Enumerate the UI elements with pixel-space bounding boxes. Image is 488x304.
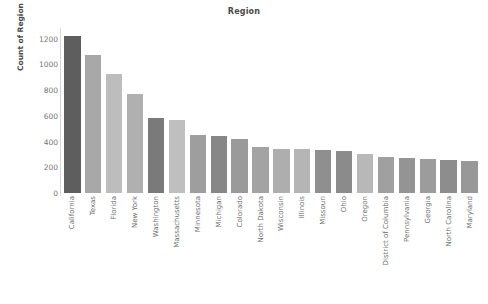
bar[interactable] <box>85 55 101 193</box>
bar[interactable] <box>169 120 185 193</box>
bar[interactable] <box>211 136 227 193</box>
x-axis-tick: Texas <box>89 196 97 215</box>
x-axis-tick: Michigan <box>215 196 223 227</box>
bar[interactable] <box>127 94 143 193</box>
x-axis-tick-labels: CaliforniaTexasFloridaNew YorkWashington… <box>62 196 480 296</box>
bar[interactable] <box>190 135 206 194</box>
bar-chart: Region Count of Region 02004006008001000… <box>0 0 488 304</box>
y-axis-tick: 800 <box>30 86 58 95</box>
x-axis-tick: Massachusetts <box>173 196 181 248</box>
bar[interactable] <box>106 74 122 193</box>
x-axis-tick: Missouri <box>319 196 327 225</box>
x-axis-tick: New York <box>131 196 139 228</box>
x-axis-tick: North Dakota <box>257 196 265 243</box>
bar[interactable] <box>148 118 164 193</box>
x-axis-tick: Illinois <box>298 196 306 218</box>
x-axis-tick: Florida <box>110 196 118 220</box>
bar[interactable] <box>378 157 394 193</box>
x-axis-tick: Wisconsin <box>277 196 285 231</box>
bar[interactable] <box>231 139 247 193</box>
x-axis-tick: District of Columbia <box>382 196 390 265</box>
bar[interactable] <box>440 160 456 193</box>
bar[interactable] <box>252 147 268 193</box>
y-axis-tick: 1200 <box>30 34 58 43</box>
y-axis-tick: 600 <box>30 111 58 120</box>
bar[interactable] <box>294 149 310 193</box>
chart-title: Region <box>0 7 488 16</box>
x-axis-tick: Minnesota <box>194 196 202 232</box>
y-axis-label: Count of Region <box>16 0 25 82</box>
x-axis-tick: Maryland <box>466 196 474 228</box>
bar[interactable] <box>64 36 80 193</box>
bar[interactable] <box>336 151 352 193</box>
y-axis-tick: 400 <box>30 137 58 146</box>
x-axis-tick: Washington <box>152 196 160 237</box>
bar[interactable] <box>315 150 331 193</box>
y-axis-line <box>60 28 61 196</box>
x-axis-tick: Oregon <box>361 196 369 222</box>
x-axis-tick: Georgia <box>424 196 432 223</box>
x-axis-tick: Ohio <box>340 196 348 212</box>
x-axis-tick: North Carolina <box>445 196 453 247</box>
bar[interactable] <box>357 154 373 193</box>
y-axis-tick: 1000 <box>30 60 58 69</box>
bar[interactable] <box>420 159 436 193</box>
bar[interactable] <box>399 158 415 193</box>
y-axis-tick: 0 <box>30 189 58 198</box>
bar-series <box>62 31 480 193</box>
bar[interactable] <box>461 161 477 193</box>
bar[interactable] <box>273 149 289 193</box>
y-axis-tick-labels: 020040060080010001200 <box>30 31 58 193</box>
x-axis-tick: Pennsylvania <box>403 196 411 242</box>
y-axis-tick: 200 <box>30 163 58 172</box>
x-axis-tick: Colorado <box>236 196 244 227</box>
x-axis-tick: California <box>68 196 76 229</box>
